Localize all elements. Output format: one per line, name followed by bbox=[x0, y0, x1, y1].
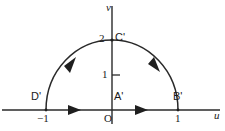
v-axis-label: v bbox=[106, 2, 111, 13]
point-label-c-prime: C' bbox=[115, 32, 125, 43]
v-tick-label-1: 1 bbox=[102, 69, 108, 80]
u-axis-label: u bbox=[214, 110, 220, 121]
point-marker-d-prime bbox=[45, 109, 48, 112]
u-axis-arrow-left-segment bbox=[68, 105, 81, 115]
figure-canvas bbox=[0, 0, 225, 131]
point-label-b-prime: B' bbox=[173, 91, 182, 102]
point-marker-c-prime bbox=[110, 38, 113, 41]
origin-label: O bbox=[104, 113, 112, 124]
v-tick-label-2: 2 bbox=[99, 33, 105, 44]
u-axis-arrow-right-segment bbox=[135, 105, 148, 115]
u-tick-label-1: 1 bbox=[175, 113, 181, 124]
u-tick-label-neg-1: −1 bbox=[37, 113, 49, 124]
uv-plane-semicircle-figure: v u 2 1 −1 1 O C' A' B' D' bbox=[0, 0, 225, 131]
point-marker-b-prime bbox=[177, 109, 180, 112]
point-label-d-prime: D' bbox=[31, 91, 41, 102]
point-label-a-prime: A' bbox=[114, 91, 123, 102]
